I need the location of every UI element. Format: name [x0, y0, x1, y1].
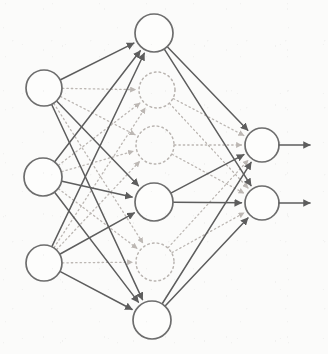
edge-i2-h2	[62, 181, 132, 197]
neural-network-svg	[0, 0, 328, 354]
hidden-node-1[interactable]	[135, 14, 173, 52]
edge-h1-o2	[164, 49, 251, 185]
hidden-node-3[interactable]	[133, 301, 171, 339]
dropped-node-3[interactable]	[136, 243, 174, 281]
active-nodes-group	[24, 14, 279, 339]
edge-i1-d3	[54, 104, 143, 243]
edge-h2-o1	[171, 155, 244, 193]
edge-i2-d1	[59, 103, 140, 165]
edge-i3-d3	[62, 262, 132, 263]
output-arrows-group	[279, 145, 310, 203]
edge-i2-h1	[55, 51, 140, 162]
edge-d1-o1	[173, 99, 243, 136]
output-node-2[interactable]	[245, 186, 279, 220]
edge-h3-o2	[165, 218, 248, 306]
edge-h3-o1	[162, 162, 251, 303]
dropped-node-2[interactable]	[136, 126, 174, 164]
edge-d1-o2	[170, 104, 248, 188]
dropped-node-1[interactable]	[139, 72, 175, 108]
edge-i3-h1	[52, 53, 144, 246]
solid-edges-group	[52, 43, 251, 309]
output-node-1[interactable]	[245, 128, 279, 162]
hidden-node-2[interactable]	[135, 183, 173, 221]
input-node-3[interactable]	[26, 245, 62, 281]
edge-i2-h3	[55, 193, 139, 303]
input-node-1[interactable]	[26, 70, 62, 106]
edge-i1-h3	[52, 105, 143, 300]
diagram-canvas	[0, 0, 328, 354]
edge-i3-h3	[60, 272, 132, 310]
dotted-edges-group	[54, 88, 248, 263]
dropped-nodes-group	[136, 72, 175, 281]
input-node-2[interactable]	[24, 158, 62, 196]
edge-h2-o2	[173, 202, 241, 203]
edge-i1-d1	[62, 88, 135, 89]
